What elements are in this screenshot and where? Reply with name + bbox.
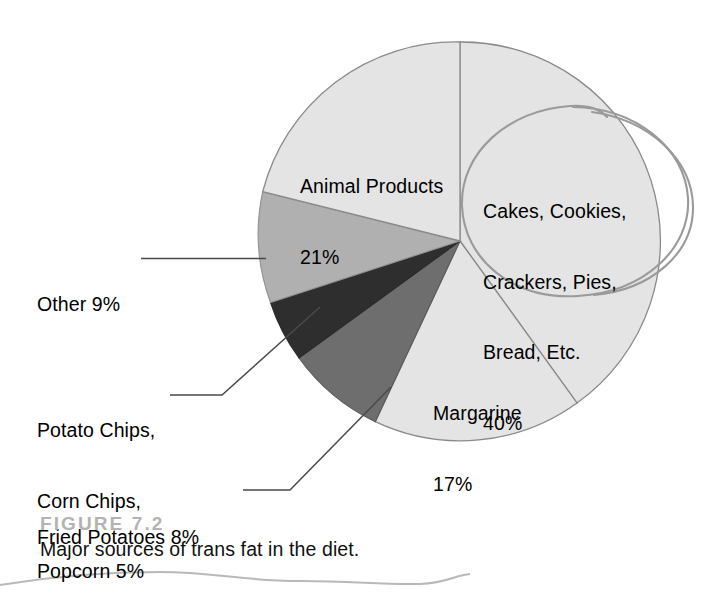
slice-label-other: Other 9% [37, 246, 120, 364]
figure-caption-block: FIGURE 7.2 Major sources of trans fat in… [40, 512, 660, 562]
slice-label-other-line1: Other 9% [37, 293, 120, 317]
figure-number: FIGURE 7.2 [40, 512, 660, 536]
slice-label-margarine-line2: 17% [433, 473, 522, 497]
slice-label-animal-products-line1: Animal Products [300, 175, 443, 199]
slice-label-animal-products-line2: 21% [300, 246, 443, 270]
slice-label-cakes-line1: Cakes, Cookies, [483, 200, 626, 224]
slice-label-animal-products: Animal Products 21% [300, 128, 443, 316]
slice-label-cakes-line2: Crackers, Pies, [483, 271, 626, 295]
figure-container: Animal Products 21% Cakes, Cookies, Crac… [0, 0, 705, 605]
slice-label-margarine-line1: Margarine [433, 402, 522, 426]
figure-caption-text: Major sources of trans fat in the diet. [40, 536, 660, 562]
slice-label-potato-chips-line1: Potato Chips, [37, 419, 155, 443]
